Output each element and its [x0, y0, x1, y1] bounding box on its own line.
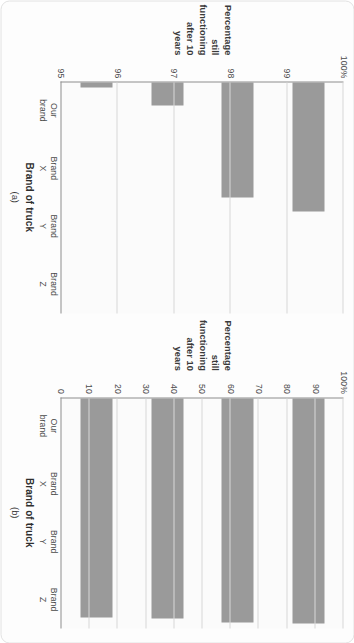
y-axis-title-a: Percentage still functioning after 10 ye… [60, 13, 343, 59]
y-axis-tick-label: 99 [281, 68, 291, 78]
y-axis-tick-label: 98 [225, 68, 235, 78]
gridline [314, 398, 315, 629]
x-axis-category-label: BrandY [34, 512, 60, 570]
plot-area-b [60, 397, 343, 629]
y-axis-title-line-1: Percentage [220, 319, 233, 370]
bar-slot [273, 398, 344, 629]
y-axis-tick-label: 96 [112, 68, 122, 78]
panel-caption-b: (b) [9, 397, 23, 629]
x-axis-category-label-line: Brand [48, 454, 59, 512]
x-axis-category-label-line: Brand [48, 255, 59, 313]
x-axis-category-label-line: Brand [48, 512, 59, 570]
y-axis-tick-label: 80 [281, 384, 291, 394]
rotated-figure-canvas: Percentage still functioning after 10 ye… [0, 0, 354, 643]
x-axis-category-label-line: Our [48, 397, 59, 455]
figure-frame: Percentage still functioning after 10 ye… [0, 0, 354, 643]
bar-brand-z[interactable] [80, 82, 112, 87]
x-axis-title-a: Brand of truck [23, 81, 34, 313]
x-axis-category-label-line: Our [48, 81, 59, 139]
gridline [173, 82, 174, 313]
bar-brand-x[interactable] [221, 398, 253, 623]
y-axis-ticks-a: 100%9998979695 [60, 59, 343, 81]
y-axis-tick-label: 20 [112, 384, 122, 394]
plot-row-a: Percentage still functioning after 10 ye… [60, 13, 343, 313]
x-axis-category-label: BrandX [34, 139, 60, 197]
gridline [229, 82, 230, 313]
y-axis-tick-label: 90 [310, 384, 320, 394]
y-axis-tick-label: 95 [55, 68, 65, 78]
bar-slot [273, 82, 344, 313]
x-axis-category-label-line: Y [37, 197, 48, 255]
y-axis-tick-label: 50 [197, 384, 207, 394]
bar-slot [132, 82, 203, 313]
y-axis-tick-label: 60 [225, 384, 235, 394]
y-axis-title-line-3: after 10 years [170, 319, 195, 370]
bar-slot [202, 398, 273, 629]
bar-slot [61, 398, 132, 629]
y-axis-title-line-1: Percentage [220, 4, 233, 55]
y-axis-title-line-2: still functioning [195, 319, 220, 370]
gridline [88, 398, 89, 629]
y-axis-tick-label: 30 [140, 384, 150, 394]
y-axis-title-line-2: still functioning [195, 4, 220, 55]
bar-slot [132, 398, 203, 629]
x-axis-category-label: BrandZ [34, 570, 60, 628]
bar-slot [202, 82, 273, 313]
gridline [145, 398, 146, 629]
bar-brand-z[interactable] [80, 398, 112, 617]
plot-row-b: Percentage still functioning after 10 ye… [60, 329, 343, 629]
gridline [201, 398, 202, 629]
figure-panels: Percentage still functioning after 10 ye… [1, 1, 353, 642]
gridline [257, 398, 258, 629]
x-axis-category-label-line: Brand [48, 197, 59, 255]
x-axis-category-label: BrandZ [34, 255, 60, 313]
x-axis-category-labels-a: OurbrandBrandXBrandYBrandZ [34, 81, 60, 313]
gridline [229, 398, 230, 629]
y-axis-title-b: Percentage still functioning after 10 ye… [60, 329, 343, 375]
gridline [342, 82, 343, 313]
x-axis-category-label-line: Z [37, 255, 48, 313]
bar-group-a [61, 82, 343, 313]
x-axis-category-label: BrandY [34, 197, 60, 255]
y-axis-tick-label: 10 [83, 384, 93, 394]
bar-brand-x[interactable] [221, 82, 253, 197]
x-axis-category-label-line: brand [37, 397, 48, 455]
x-axis-category-label-line: Y [37, 512, 48, 570]
x-axis-category-label-line: brand [37, 81, 48, 139]
gridline [173, 398, 174, 629]
gridline [116, 398, 117, 629]
plot-area-a [60, 81, 343, 313]
gridline [286, 398, 287, 629]
y-axis-tick-label: 100% [338, 55, 348, 78]
x-axis-category-label-line: Brand [48, 139, 59, 197]
gridline [116, 82, 117, 313]
gridline [286, 82, 287, 313]
y-axis-tick-label: 0 [55, 389, 65, 394]
gridline [342, 398, 343, 629]
y-axis-tick-label: 70 [253, 384, 263, 394]
x-axis-category-label-line: Brand [48, 570, 59, 628]
x-axis-category-label: Ourbrand [34, 81, 60, 139]
x-axis-category-label-line: X [37, 139, 48, 197]
x-axis-category-label-line: X [37, 454, 48, 512]
bar-slot [61, 82, 132, 313]
x-axis-category-label: Ourbrand [34, 397, 60, 455]
x-axis-category-label-line: Z [37, 570, 48, 628]
x-axis-category-label: BrandX [34, 454, 60, 512]
chart-panel-a: Percentage still functioning after 10 ye… [9, 13, 343, 313]
x-axis-category-labels-b: OurbrandBrandXBrandYBrandZ [34, 397, 60, 629]
bar-brand-y[interactable] [151, 82, 183, 105]
y-axis-tick-label: 97 [168, 68, 178, 78]
y-axis-tick-label: 100% [338, 371, 348, 394]
bar-our-brand[interactable] [292, 398, 324, 623]
y-axis-tick-label: 40 [168, 384, 178, 394]
x-axis-title-b: Brand of truck [23, 397, 34, 629]
bar-brand-y[interactable] [151, 398, 183, 618]
y-axis-title-line-3: after 10 years [170, 4, 195, 55]
chart-panel-b: Percentage still functioning after 10 ye… [9, 329, 343, 629]
panel-caption-a: (a) [9, 81, 23, 313]
bar-our-brand[interactable] [292, 82, 324, 211]
y-axis-ticks-b: 100%9080706050403020100 [60, 375, 343, 397]
